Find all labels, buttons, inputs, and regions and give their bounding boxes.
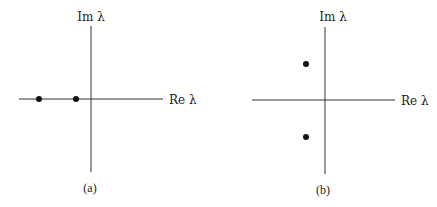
panel-b-imag-axis-label: Im λ [319,10,347,24]
panel-a-eigenvalue-point-1 [36,96,42,102]
eigenvalue-diagram: Im λ Re λ (a) Im λ Re λ (b) [0,0,437,207]
panel-a-real-axis-label: Re λ [169,93,197,107]
panel-b: Im λ Re λ (b) [252,10,429,197]
panel-b-caption: (b) [316,183,330,197]
panel-b-eigenvalue-point-upper [303,61,309,67]
panel-a-eigenvalue-point-2 [73,96,79,102]
panel-a: Im λ Re λ (a) [19,10,197,195]
panel-a-imag-axis-label: Im λ [77,10,105,24]
panel-b-real-axis-label: Re λ [401,94,429,108]
panel-b-eigenvalue-point-lower [303,134,309,140]
panel-a-caption: (a) [83,181,96,195]
